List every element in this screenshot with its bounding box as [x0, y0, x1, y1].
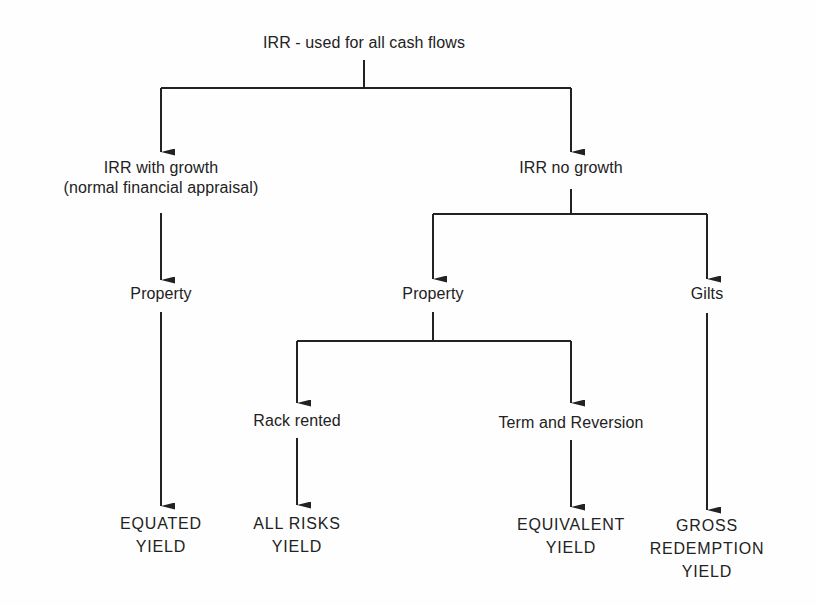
leaf-equated-yield: EQUATED YIELD [120, 512, 202, 558]
leaf-all-risks-yield: ALL RISKS YIELD [253, 512, 341, 558]
node-irr-no-growth: IRR no growth [519, 158, 623, 178]
node-irr-with-growth-subtitle: (normal financial appraisal) [64, 178, 259, 198]
leaf-equivalent-yield-line2: YIELD [517, 536, 625, 559]
node-rack-rented: Rack rented [253, 411, 340, 431]
leaf-equivalent-yield-line1: EQUIVALENT [517, 513, 625, 536]
leaf-gross-redemption-yield-line2: REDEMPTION [650, 537, 765, 560]
node-gilts: Gilts [691, 284, 724, 304]
leaf-equivalent-yield: EQUIVALENT YIELD [517, 513, 625, 559]
node-irr-with-growth-title: IRR with growth [64, 158, 259, 178]
node-growth-property: Property [130, 284, 191, 304]
node-irr-with-growth: IRR with growth (normal financial apprai… [64, 158, 259, 198]
leaf-equated-yield-line2: YIELD [120, 535, 202, 558]
leaf-all-risks-yield-line1: ALL RISKS [253, 512, 341, 535]
leaf-equated-yield-line1: EQUATED [120, 512, 202, 535]
node-term-and-reversion: Term and Reversion [499, 413, 644, 433]
root-node-irr: IRR - used for all cash flows [263, 33, 465, 53]
leaf-gross-redemption-yield-line1: GROSS [650, 514, 765, 537]
leaf-gross-redemption-yield-line3: YIELD [650, 560, 765, 583]
leaf-gross-redemption-yield: GROSS REDEMPTION YIELD [650, 514, 765, 583]
leaf-all-risks-yield-line2: YIELD [253, 535, 341, 558]
yield-hierarchy-diagram: IRR - used for all cash flows IRR with g… [0, 0, 817, 605]
node-nogrowth-property: Property [402, 284, 463, 304]
